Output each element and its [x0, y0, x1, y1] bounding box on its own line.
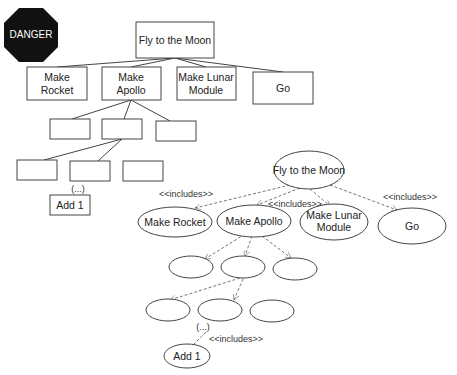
- svg-text:Go: Go: [276, 82, 290, 94]
- svg-text:Module: Module: [317, 221, 352, 233]
- tree-ellipsis: (...): [71, 184, 85, 194]
- include-arrow: [170, 278, 240, 300]
- includes-label: <<includes>>: [209, 334, 263, 344]
- use-case-make-apollo: Make Apollo: [217, 205, 291, 237]
- svg-text:Add 1: Add 1: [173, 350, 201, 362]
- tree-node-add-1: Add 1: [50, 195, 90, 215]
- danger-sign: DANGER: [4, 8, 58, 62]
- svg-text:Make: Make: [44, 71, 70, 83]
- tree-edge: [131, 100, 170, 121]
- tree-node-make-apollo: Make Apollo: [102, 67, 161, 100]
- use-case-root: Fly to the Moon: [273, 151, 346, 189]
- use-case-empty: [221, 256, 265, 278]
- include-arrow: [205, 234, 245, 259]
- tree-node-root: Fly to the Moon: [136, 22, 214, 58]
- svg-text:Make Apollo: Make Apollo: [225, 215, 282, 227]
- tree-node-empty: [70, 161, 110, 181]
- tree-node-empty: [102, 119, 142, 139]
- use-case-make-lunar-module: Make Lunar Module: [300, 204, 368, 240]
- svg-text:Add 1: Add 1: [56, 199, 84, 211]
- tree-node-go: Go: [253, 72, 313, 104]
- tree-edge: [175, 58, 206, 67]
- tree-node-make-lunar-module: Make Lunar Module: [177, 67, 236, 100]
- svg-text:Make Lunar: Make Lunar: [178, 71, 234, 83]
- use-case-empty: [169, 256, 213, 278]
- svg-text:Apollo: Apollo: [116, 84, 145, 96]
- includes-label: <<includes>>: [159, 189, 213, 199]
- include-arrow: [262, 236, 291, 258]
- danger-label: DANGER: [10, 29, 53, 40]
- svg-text:Make: Make: [118, 71, 144, 83]
- tree-edge: [72, 100, 131, 119]
- svg-text:Make Rocket: Make Rocket: [144, 216, 205, 228]
- tree-node-empty: [17, 160, 57, 180]
- svg-text:Rocket: Rocket: [41, 84, 74, 96]
- use-case-empty: [198, 299, 242, 321]
- tree-node-empty: [50, 119, 90, 139]
- tree-edge: [57, 58, 175, 67]
- include-arrow: [245, 236, 252, 256]
- use-case-ellipsis: (...): [196, 322, 210, 332]
- svg-text:Fly to the Moon: Fly to the Moon: [139, 34, 212, 46]
- diagram-canvas: DANGER Fly to the Moon Make Rocket Make …: [0, 0, 457, 375]
- use-case-empty: [250, 300, 294, 322]
- include-arrow: [234, 279, 243, 300]
- svg-text:Fly to the Moon: Fly to the Moon: [273, 164, 346, 176]
- use-case-empty: [273, 258, 317, 280]
- svg-text:Make Lunar: Make Lunar: [306, 209, 362, 221]
- use-case-make-rocket: Make Rocket: [138, 207, 212, 237]
- tree-node-empty: [123, 161, 163, 181]
- use-case-diagram: <<includes>> <<includes>> <<includes>> <…: [138, 151, 446, 368]
- tree-node-empty: [156, 121, 196, 141]
- use-case-go: Go: [378, 208, 446, 244]
- svg-text:Go: Go: [405, 220, 419, 232]
- tree-node-make-rocket: Make Rocket: [27, 67, 87, 100]
- use-case-add-1: Add 1: [164, 344, 210, 368]
- tree-edge: [124, 100, 131, 119]
- tree-diagram: Fly to the Moon Make Rocket Make Apollo …: [17, 22, 313, 215]
- includes-label: <<includes>>: [383, 192, 437, 202]
- svg-text:Module: Module: [189, 84, 224, 96]
- use-case-empty: [146, 299, 190, 321]
